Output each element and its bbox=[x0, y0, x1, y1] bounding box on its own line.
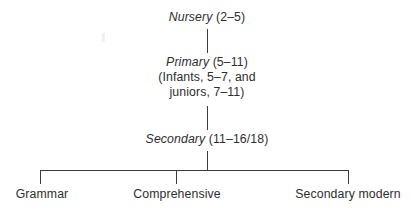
connector-nursery-primary bbox=[207, 29, 208, 53]
branch-bar bbox=[40, 170, 349, 171]
node-secondary: Secondary (11–16/18) bbox=[146, 132, 269, 147]
node-primary-headline: Primary (5–11) bbox=[158, 55, 256, 70]
branch-stub-comprehensive bbox=[176, 170, 177, 184]
branch-stub-secondary-modern bbox=[348, 170, 349, 184]
branch-label-grammar: Grammar bbox=[16, 187, 69, 202]
education-system-diagram: Nursery (2–5) Primary (5–11) (Infants, 5… bbox=[0, 0, 411, 214]
connector-primary-secondary bbox=[207, 106, 208, 130]
branch-stub-grammar bbox=[40, 170, 41, 184]
node-nursery: Nursery (2–5) bbox=[169, 10, 246, 25]
node-primary-stage: Primary bbox=[166, 55, 209, 69]
node-primary-ages: (5–11) bbox=[213, 55, 248, 69]
node-secondary-stage: Secondary bbox=[146, 132, 206, 146]
node-secondary-ages: (11–16/18) bbox=[209, 132, 269, 146]
scan-artifact bbox=[102, 33, 105, 42]
node-primary-detail-line-2: juniors, 7–11) bbox=[158, 85, 256, 100]
node-primary-detail-line-1: (Infants, 5–7, and bbox=[158, 70, 256, 85]
node-nursery-ages: (2–5) bbox=[216, 10, 245, 24]
branch-label-secondary-modern: Secondary modern bbox=[295, 187, 401, 202]
node-nursery-stage: Nursery bbox=[169, 10, 213, 24]
branch-label-comprehensive: Comprehensive bbox=[133, 187, 220, 202]
node-primary: Primary (5–11) (Infants, 5–7, and junior… bbox=[158, 55, 256, 100]
connector-secondary-branches bbox=[207, 151, 208, 171]
